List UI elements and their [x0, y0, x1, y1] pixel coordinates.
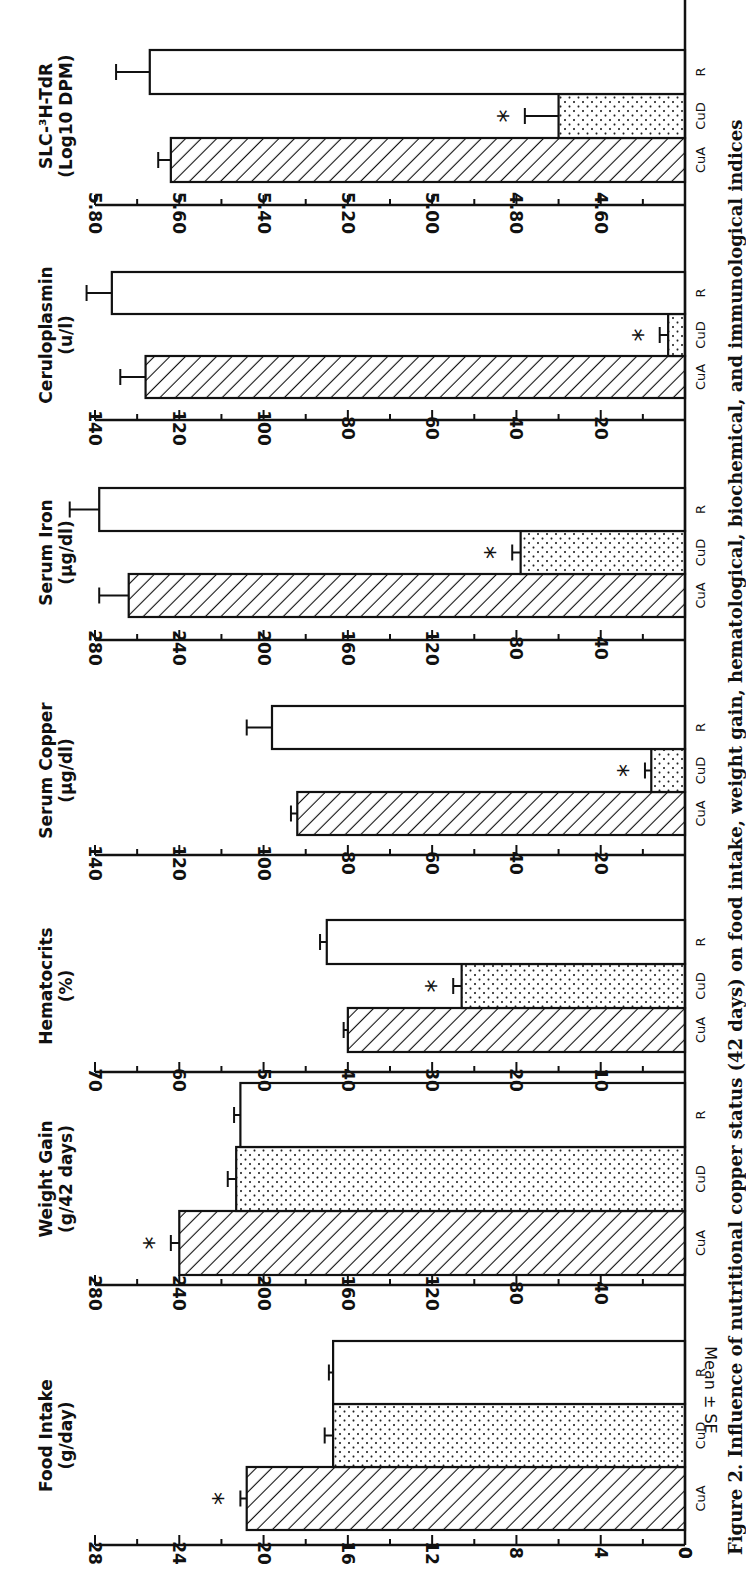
tick-label: 120 [169, 845, 189, 881]
bar-r [327, 920, 685, 964]
category-label: R [693, 67, 708, 76]
panel-unit-label: (µg/dl) [56, 520, 76, 584]
bar-cua [297, 792, 685, 835]
bar-cua [171, 138, 685, 182]
tick-label: 20 [506, 1068, 526, 1092]
bar-cua [129, 574, 685, 617]
panel-title: Hematocrits [36, 927, 56, 1044]
category-label: R [693, 723, 708, 732]
panel-serum-copper: 20406080100120140Serum Copper(µg/dl)CuA*… [36, 702, 708, 881]
tick-label: 60 [169, 1068, 189, 1092]
category-label: CuA [693, 147, 708, 173]
panel-slc-h-tdr: 4.604.805.005.205.405.605.80SLC-³H-TdR(L… [36, 50, 708, 234]
rotated-figure: 04812162024280Food Intake(g/day)*CuACuDR… [0, 0, 746, 1585]
tick-label: 28 [85, 1541, 105, 1565]
tick-label: 120 [422, 630, 442, 666]
category-label: CuD [693, 539, 708, 566]
tick-label: 70 [85, 1068, 105, 1092]
bar-cud [333, 1404, 685, 1467]
tick-label: 30 [422, 1068, 442, 1092]
tick-label: 5.40 [254, 192, 274, 234]
tick-label: 280 [85, 630, 105, 666]
figure-caption: Figure 2. Influence of nutritional coppe… [725, 120, 746, 1555]
panel-unit-label: (u/l) [56, 315, 76, 355]
significance-asterisk: * [628, 329, 658, 342]
tick-label: 80 [506, 1281, 526, 1305]
tick-label: 200 [254, 630, 274, 666]
tick-label: 4.80 [506, 192, 526, 234]
panel-title: Serum Copper [36, 702, 56, 839]
panel-title: SLC-³H-TdR [36, 63, 56, 169]
tick-label: 120 [169, 410, 189, 446]
panel-title: Serum Iron [36, 499, 56, 605]
bar-cua [247, 1467, 685, 1530]
category-label: CuA [693, 1230, 708, 1256]
tick-label: 80 [338, 851, 358, 875]
category-label: CuD [693, 757, 708, 784]
tick-label-zero: 0 [675, 1547, 695, 1559]
significance-asterisk: * [139, 1237, 169, 1250]
bar-r [150, 50, 685, 94]
panel-unit-label: (%) [56, 970, 76, 1003]
bar-r [99, 488, 685, 531]
tick-label: 80 [506, 636, 526, 660]
tick-label: 8 [506, 1547, 526, 1559]
tick-label: 50 [254, 1068, 274, 1092]
tick-label: 240 [169, 630, 189, 666]
category-label: R [693, 288, 708, 297]
tick-label: 140 [85, 845, 105, 881]
tick-label: 240 [169, 1275, 189, 1311]
category-label: CuA [693, 1017, 708, 1043]
tick-label: 140 [85, 410, 105, 446]
tick-label: 4 [591, 1547, 611, 1559]
tick-label: 16 [338, 1541, 358, 1565]
category-label: CuD [693, 1165, 708, 1192]
tick-label: 280 [85, 1275, 105, 1311]
significance-asterisk: * [613, 764, 643, 777]
tick-label: 20 [254, 1541, 274, 1565]
tick-label: 5.00 [422, 192, 442, 234]
panel-ceruloplasmin: 20406080100120140Ceruloplasmin(u/l)CuA*C… [36, 266, 708, 446]
shared-y-axis-label: Mean ± SE [701, 1346, 720, 1433]
tick-label: 12 [422, 1541, 442, 1565]
bar-cud [668, 314, 685, 356]
significance-asterisk: * [421, 980, 451, 993]
tick-label: 5.20 [338, 192, 358, 234]
category-label: R [693, 505, 708, 514]
panel-weight-gain: 4080120160200240280Weight Gain(g/42 days… [36, 1083, 708, 1311]
tick-label: 60 [422, 416, 442, 440]
category-label: R [693, 937, 708, 946]
tick-label: 200 [254, 1275, 274, 1311]
tick-label: 20 [591, 416, 611, 440]
panel-title: Ceruloplasmin [36, 266, 56, 403]
bar-r [333, 1341, 685, 1404]
tick-label: 80 [338, 416, 358, 440]
panel-food-intake: 04812162024280Food Intake(g/day)*CuACuDR [36, 1341, 708, 1565]
bar-r [272, 706, 685, 749]
tick-label: 40 [506, 416, 526, 440]
significance-asterisk: * [208, 1492, 238, 1505]
category-label: CuD [693, 321, 708, 348]
panel-unit-label: (µg/dl) [56, 738, 76, 802]
panel-unit-label: (Log10 DPM) [56, 54, 76, 177]
bar-cud [651, 749, 685, 792]
tick-label: 100 [254, 410, 274, 446]
tick-label: 160 [338, 1275, 358, 1311]
chart-panels: 04812162024280Food Intake(g/day)*CuACuDR… [36, 50, 708, 1565]
category-label: CuA [693, 582, 708, 608]
category-label: CuD [693, 102, 708, 129]
category-label: CuD [693, 972, 708, 999]
bar-cua [146, 356, 685, 398]
tick-label: 10 [591, 1068, 611, 1092]
significance-asterisk: * [493, 110, 523, 123]
tick-label: 40 [591, 1281, 611, 1305]
tick-label: 60 [422, 851, 442, 875]
bar-cud [559, 94, 685, 138]
category-label: R [693, 1110, 708, 1119]
tick-label: 160 [338, 630, 358, 666]
panel-serum-iron: 4080120160200240280Serum Iron(µg/dl)CuA*… [36, 488, 708, 666]
panel-unit-label: (g/day) [56, 1401, 76, 1469]
significance-asterisk: * [480, 546, 510, 559]
tick-label: 40 [506, 851, 526, 875]
bar-r [240, 1083, 685, 1147]
